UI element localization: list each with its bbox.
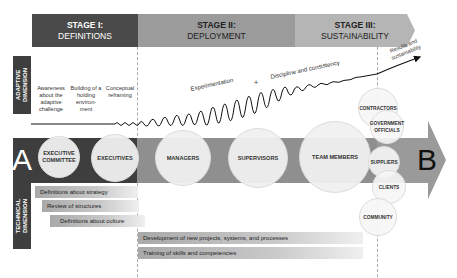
tech-definitions-culture: Definitions about culture (50, 215, 145, 227)
point-b-label: B (417, 145, 437, 175)
technical-dimension-label: TECHNICAL DIMENSION (15, 186, 29, 246)
circle-executives: EXECUTIVES (91, 134, 139, 182)
tech-development-projects: Development of new projects, systems, an… (138, 232, 363, 244)
tech-training-skills: Training of skills and competencies (138, 247, 363, 259)
circle-executive-committee: EXECUTIVE COMMITTEE (38, 136, 80, 178)
circle-supervisors: SUPERVISORS (228, 128, 288, 188)
circle-government-officials: GOVERNMENT OFFICIALS (370, 110, 404, 144)
circle-managers: MANAGERS (155, 130, 211, 186)
circle-community: COMMUNITY (359, 198, 397, 236)
tech-definitions-strategy: Definitions about strategy (35, 186, 138, 198)
tech-review-structures: Review of structures (42, 200, 139, 212)
point-a-label: A (12, 145, 32, 175)
technical-dimension-bar: TECHNICAL DIMENSION (13, 183, 31, 249)
circle-team-members: TEAM MEMBERS (299, 121, 371, 193)
